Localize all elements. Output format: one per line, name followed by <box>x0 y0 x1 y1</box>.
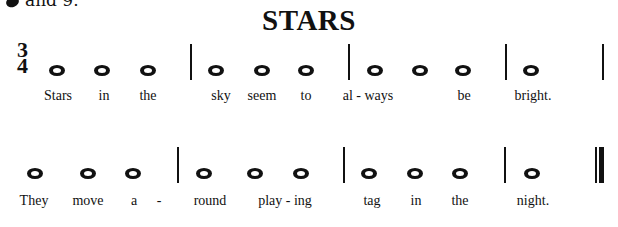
whole-note-icon <box>49 65 65 76</box>
lyric-syllable: round <box>194 193 227 209</box>
whole-note-icon <box>140 65 156 76</box>
whole-note-icon <box>80 168 96 179</box>
whole-note-icon <box>524 168 540 179</box>
lyric-syllable: Stars <box>44 88 72 104</box>
whole-note-icon <box>412 65 428 76</box>
whole-note-icon <box>293 168 309 179</box>
lyric-syllable: bright. <box>515 88 552 104</box>
lyric-syllable: sky <box>211 88 230 104</box>
lyric-syllable: move <box>72 193 103 209</box>
whole-note-icon <box>254 65 270 76</box>
final-bar-line-thin <box>595 147 597 183</box>
whole-note-icon <box>247 168 263 179</box>
lyric-syllable: in <box>411 193 422 209</box>
time-signature-bottom: 4 <box>17 58 28 74</box>
lyric-syllable: - <box>157 193 162 209</box>
song-title: STARS <box>0 4 618 37</box>
whole-note-icon <box>196 168 212 179</box>
lyric-syllable: seem <box>248 88 277 104</box>
bar-line <box>504 147 506 183</box>
whole-note-icon <box>125 168 141 179</box>
lyric-syllable: tag <box>363 193 380 209</box>
bar-line <box>505 44 507 80</box>
lyric-syllable: a <box>131 193 137 209</box>
lyric-syllable: in <box>99 88 110 104</box>
whole-note-icon <box>452 168 468 179</box>
lyric-syllable: the <box>139 88 156 104</box>
lyric-syllable: the <box>451 193 468 209</box>
lyric-syllable: be <box>457 88 470 104</box>
bar-line <box>348 44 350 80</box>
bar-line <box>190 44 192 80</box>
whole-note-icon <box>523 65 539 76</box>
lyric-syllable: to <box>301 88 312 104</box>
whole-note-icon <box>208 65 224 76</box>
bar-line <box>602 44 604 80</box>
whole-note-icon <box>361 168 377 179</box>
lyric-syllable: al - ways <box>343 88 394 104</box>
lyric-syllable: They <box>20 193 49 209</box>
whole-note-icon <box>455 65 471 76</box>
bar-line <box>177 147 179 183</box>
time-signature: 3 4 <box>17 42 28 74</box>
whole-note-icon <box>94 65 110 76</box>
whole-note-icon <box>367 65 383 76</box>
whole-note-icon <box>407 168 423 179</box>
bar-line <box>343 147 345 183</box>
whole-note-icon <box>27 168 43 179</box>
whole-note-icon <box>298 65 314 76</box>
lyric-syllable: night. <box>517 193 549 209</box>
lyric-syllable: play - ing <box>258 193 312 209</box>
final-bar-line-thick <box>599 147 604 183</box>
